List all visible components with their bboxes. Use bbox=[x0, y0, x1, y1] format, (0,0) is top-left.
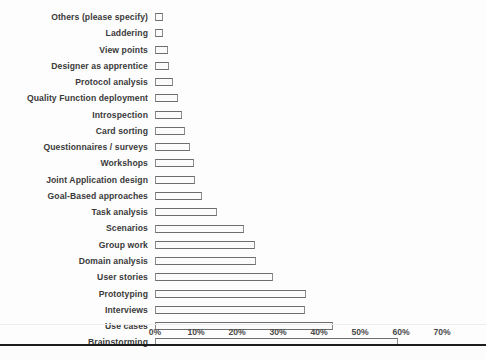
chart-row: Task analysis bbox=[0, 204, 486, 220]
chart-row: Introspection bbox=[0, 107, 486, 123]
category-label: Designer as apprentice bbox=[0, 58, 148, 74]
bar[interactable] bbox=[155, 13, 163, 21]
chart-row: Domain analysis bbox=[0, 253, 486, 269]
chart-row: Questionnaires / surveys bbox=[0, 139, 486, 155]
chart-row: Laddering bbox=[0, 25, 486, 41]
bar-track bbox=[155, 25, 486, 41]
chart-row: User stories bbox=[0, 269, 486, 285]
bar[interactable] bbox=[155, 257, 256, 265]
bar-chart: Others (please specify)LadderingView poi… bbox=[0, 0, 486, 360]
x-axis-tick-labels: 0%10%20%30%40%50%60%70% bbox=[0, 327, 486, 345]
chart-row: Quality Function deployment bbox=[0, 90, 486, 106]
category-label: Laddering bbox=[0, 25, 148, 41]
bar[interactable] bbox=[155, 127, 185, 135]
x-axis-tick: 10% bbox=[174, 327, 218, 337]
category-label: Others (please specify) bbox=[0, 9, 148, 25]
bar-track bbox=[155, 74, 486, 90]
chart-row: Workshops bbox=[0, 155, 486, 171]
bar[interactable] bbox=[155, 225, 244, 233]
bar-track bbox=[155, 188, 486, 204]
bar[interactable] bbox=[155, 306, 305, 314]
bar-track bbox=[155, 9, 486, 25]
bar-track bbox=[155, 155, 486, 171]
chart-row: Group work bbox=[0, 237, 486, 253]
bar-track bbox=[155, 107, 486, 123]
category-label: Goal-Based approaches bbox=[0, 188, 148, 204]
category-label: Workshops bbox=[0, 155, 148, 171]
bar-track bbox=[155, 139, 486, 155]
bar[interactable] bbox=[155, 46, 168, 54]
bar-track bbox=[155, 302, 486, 318]
x-axis-tick: 50% bbox=[338, 327, 382, 337]
category-label: Quality Function deployment bbox=[0, 90, 148, 106]
bar-track bbox=[155, 269, 486, 285]
chart-row: Prototyping bbox=[0, 286, 486, 302]
bar[interactable] bbox=[155, 62, 169, 70]
category-label: Introspection bbox=[0, 107, 148, 123]
category-label: Joint Application design bbox=[0, 172, 148, 188]
category-label: User stories bbox=[0, 269, 148, 285]
chart-row: Joint Application design bbox=[0, 172, 486, 188]
x-axis-tick: 0% bbox=[133, 327, 177, 337]
chart-row: Others (please specify) bbox=[0, 9, 486, 25]
x-axis-tick: 40% bbox=[297, 327, 341, 337]
bar-track bbox=[155, 123, 486, 139]
bar[interactable] bbox=[155, 143, 190, 151]
bar-track bbox=[155, 172, 486, 188]
bar-track bbox=[155, 286, 486, 302]
bar-track bbox=[155, 42, 486, 58]
bar-track bbox=[155, 58, 486, 74]
category-label: View points bbox=[0, 42, 148, 58]
bar[interactable] bbox=[155, 111, 182, 119]
bar[interactable] bbox=[155, 176, 195, 184]
bar-track bbox=[155, 237, 486, 253]
chart-row: Scenarios bbox=[0, 220, 486, 236]
plot-bottom-divider bbox=[0, 324, 486, 325]
x-axis-tick: 30% bbox=[256, 327, 300, 337]
x-axis-tick: 60% bbox=[379, 327, 423, 337]
chart-row: Designer as apprentice bbox=[0, 58, 486, 74]
bar-track bbox=[155, 90, 486, 106]
chart-row: View points bbox=[0, 42, 486, 58]
chart-row: Protocol analysis bbox=[0, 74, 486, 90]
bar[interactable] bbox=[155, 159, 194, 167]
bar-track bbox=[155, 253, 486, 269]
footer-area bbox=[0, 347, 486, 360]
x-axis-tick: 70% bbox=[420, 327, 464, 337]
chart-row: Goal-Based approaches bbox=[0, 188, 486, 204]
category-label: Task analysis bbox=[0, 204, 148, 220]
category-label: Group work bbox=[0, 237, 148, 253]
bar-track bbox=[155, 204, 486, 220]
category-label: Domain analysis bbox=[0, 253, 148, 269]
bar[interactable] bbox=[155, 241, 255, 249]
category-label: Questionnaires / surveys bbox=[0, 139, 148, 155]
bar[interactable] bbox=[155, 29, 163, 37]
category-label: Card sorting bbox=[0, 123, 148, 139]
bar[interactable] bbox=[155, 273, 273, 281]
category-label: Protocol analysis bbox=[0, 74, 148, 90]
category-label: Interviews bbox=[0, 302, 148, 318]
x-axis-tick: 20% bbox=[215, 327, 259, 337]
category-label: Scenarios bbox=[0, 220, 148, 236]
category-label: Prototyping bbox=[0, 286, 148, 302]
chart-rows: Others (please specify)LadderingView poi… bbox=[0, 9, 486, 351]
bar[interactable] bbox=[155, 192, 202, 200]
chart-row: Card sorting bbox=[0, 123, 486, 139]
bar[interactable] bbox=[155, 208, 217, 216]
bar-track bbox=[155, 220, 486, 236]
bar[interactable] bbox=[155, 94, 178, 102]
chart-row: Interviews bbox=[0, 302, 486, 318]
bar[interactable] bbox=[155, 290, 306, 298]
bar[interactable] bbox=[155, 78, 173, 86]
